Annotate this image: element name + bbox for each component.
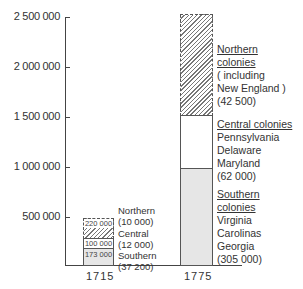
annotation-1715-central: Central (12 000) xyxy=(118,228,153,250)
segment-label: 100 000 xyxy=(84,239,113,248)
annotation-name: Northern xyxy=(118,205,155,216)
annotation-line: Georgia xyxy=(217,240,262,253)
ytick xyxy=(65,217,70,218)
bar-1775-northern xyxy=(180,14,213,116)
annotation-title: colonies xyxy=(217,201,262,214)
annotation-line: New England ) xyxy=(217,82,286,95)
annotation-1775-northern: Northern colonies ( including New Englan… xyxy=(217,43,286,108)
annotation-1775-southern: Southern colonies Virginia Carolinas Geo… xyxy=(217,188,262,266)
annotation-title: Central colonies xyxy=(217,118,292,131)
annotation-line: (305 000) xyxy=(217,253,262,266)
ytick xyxy=(65,67,70,68)
ytick-label-2000000: 2 000 000 xyxy=(0,60,60,72)
annotation-line: Virginia xyxy=(217,214,262,227)
annotation-count: (10 000) xyxy=(118,216,155,227)
annotation-count: (37 200) xyxy=(118,261,157,272)
xtick-label-1775: 1775 xyxy=(184,270,212,282)
ytick xyxy=(65,117,70,118)
annotation-1715-southern: Southern (37 200) xyxy=(118,250,157,272)
annotation-title: Southern xyxy=(217,188,262,201)
annotation-title: colonies xyxy=(217,56,286,69)
bar-1715-northern: 220 000 xyxy=(83,218,114,239)
annotation-name: Central xyxy=(118,228,153,239)
annotation-line: ( including xyxy=(217,69,286,82)
ytick-label-2500000: 2 500 000 xyxy=(0,10,60,22)
bar-1715-southern: 173 000 xyxy=(83,248,114,266)
xtick-label-1715: 1715 xyxy=(86,270,114,282)
segment-label: 220 000 xyxy=(84,219,113,228)
annotation-title: Northern xyxy=(217,43,286,56)
annotation-line: Pennsylvania xyxy=(217,131,292,144)
annotation-1715-northern: Northern (10 000) xyxy=(118,205,155,227)
annotation-line: Maryland xyxy=(217,157,292,170)
annotation-name: Southern xyxy=(118,250,157,261)
ytick xyxy=(65,17,70,18)
ytick-label-500000: 500 000 xyxy=(0,210,60,222)
segment-label: 173 000 xyxy=(84,250,113,259)
ytick xyxy=(65,167,70,168)
bar-1775-southern xyxy=(180,168,213,266)
annotation-1775-central: Central colonies Pennsylvania Delaware M… xyxy=(217,118,292,183)
ytick-label-1000000: 1 000 000 xyxy=(0,160,60,172)
bar-1775-central xyxy=(180,115,213,169)
annotation-line: (42 500) xyxy=(217,95,286,108)
ytick-label-1500000: 1 500 000 xyxy=(0,110,60,122)
y-axis xyxy=(65,17,66,266)
annotation-line: Carolinas xyxy=(217,227,262,240)
annotation-line: Delaware xyxy=(217,144,292,157)
annotation-line: (62 000) xyxy=(217,170,292,183)
bar-1715: 220 000 100 000 173 000 xyxy=(83,218,114,266)
bar-1775 xyxy=(180,14,213,266)
annotation-count: (12 000) xyxy=(118,239,153,250)
